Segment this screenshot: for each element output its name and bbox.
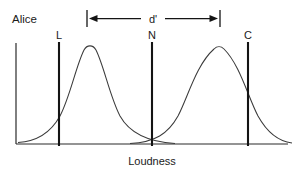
criterion-label-L: L bbox=[56, 29, 62, 41]
signal-distribution-curve bbox=[130, 47, 292, 144]
criterion-label-N: N bbox=[148, 29, 156, 41]
figure-canvas: d' Alice L N C Loudness bbox=[0, 0, 297, 172]
d-prime-label: d' bbox=[149, 13, 157, 25]
d-prime-measure-group: d' bbox=[87, 10, 220, 27]
observer-name-label: Alice bbox=[12, 13, 37, 25]
x-axis-title: Loudness bbox=[128, 155, 176, 167]
signal-detection-figure: d' Alice L N C Loudness bbox=[0, 0, 297, 172]
d-prime-left-arrowhead bbox=[89, 15, 98, 22]
criterion-label-C: C bbox=[244, 29, 252, 41]
d-prime-right-arrowhead bbox=[210, 15, 219, 22]
